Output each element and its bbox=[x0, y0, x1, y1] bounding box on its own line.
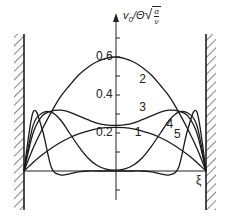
chart-svg bbox=[0, 0, 227, 224]
curve-label-3: 3 bbox=[139, 101, 146, 113]
curve-label-5: 5 bbox=[174, 128, 181, 140]
y-axis-ticks bbox=[116, 38, 120, 190]
x-axis-label: ξ bbox=[196, 174, 201, 186]
y-tick-label: 0.6 bbox=[96, 50, 113, 62]
curve-label-1: 1 bbox=[135, 126, 142, 138]
y-tick-label: 0.2 bbox=[96, 126, 113, 138]
curve-4 bbox=[24, 111, 206, 171]
curve-2 bbox=[24, 57, 206, 171]
curve-label-2: 2 bbox=[139, 73, 146, 85]
curve-5 bbox=[24, 110, 206, 175]
y-axis bbox=[113, 13, 119, 200]
curve-label-4: 4 bbox=[167, 118, 174, 130]
y-axis-label: v0/Θ√αν bbox=[123, 6, 161, 26]
left-wall bbox=[14, 34, 24, 210]
right-wall bbox=[206, 34, 216, 210]
curves bbox=[24, 57, 206, 175]
y-tick-label: 0.4 bbox=[96, 88, 113, 100]
